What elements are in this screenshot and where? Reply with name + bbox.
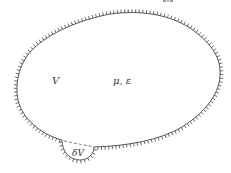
material-properties-label: μ, ε [113, 75, 131, 86]
cropped-caption-fragment [163, 0, 173, 2]
subregion-label-deltaV: δV [72, 148, 85, 158]
region-diagram: V μ, ε δV [0, 0, 231, 173]
region-label-V: V [52, 75, 61, 86]
subregion-dashed-chord [64, 141, 94, 147]
